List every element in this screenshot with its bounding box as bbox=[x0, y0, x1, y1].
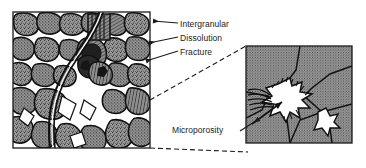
leader-dissolution bbox=[149, 37, 178, 43]
leader-fracture bbox=[146, 51, 178, 61]
label-intergranular: Intergranular bbox=[180, 20, 229, 29]
grain bbox=[31, 63, 56, 86]
grain bbox=[34, 37, 59, 61]
left-panel bbox=[7, 12, 153, 152]
grain bbox=[124, 13, 149, 36]
right-panel bbox=[246, 46, 352, 143]
grain bbox=[14, 13, 39, 35]
magnification-cone bbox=[150, 46, 248, 152]
grain-group-row1 bbox=[14, 12, 149, 35]
leader-intergranular bbox=[153, 21, 178, 23]
left-panel-content bbox=[7, 12, 153, 152]
right-panel-content bbox=[246, 46, 352, 143]
grain bbox=[125, 37, 150, 61]
grain bbox=[11, 37, 34, 60]
label-microporosity: Microporosity bbox=[172, 126, 223, 135]
cone-line-lower bbox=[150, 148, 248, 152]
grain bbox=[102, 90, 127, 114]
grain bbox=[103, 38, 128, 62]
grain bbox=[37, 12, 62, 34]
label-dissolution: Dissolution bbox=[180, 34, 222, 43]
grain bbox=[128, 64, 151, 87]
petrographic-figure: Intergranular Dissolution Fracture Micro… bbox=[0, 0, 366, 168]
label-fracture: Fracture bbox=[180, 48, 212, 57]
